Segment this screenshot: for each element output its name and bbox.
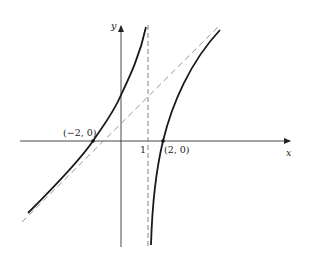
graph-figure: (−2, 0) (2, 0) 1 x y — [0, 0, 315, 260]
point-neg2-0 — [91, 139, 95, 143]
tick-label-one: 1 — [140, 144, 146, 155]
left-branch-curve — [28, 27, 146, 213]
point-label-neg2-0: (−2, 0) — [63, 127, 97, 138]
y-axis-label: y — [110, 20, 117, 31]
right-branch-curve — [151, 30, 220, 245]
x-axis-label: x — [286, 147, 292, 158]
point-2-0 — [161, 139, 165, 143]
point-label-2-0: (2, 0) — [164, 144, 190, 155]
